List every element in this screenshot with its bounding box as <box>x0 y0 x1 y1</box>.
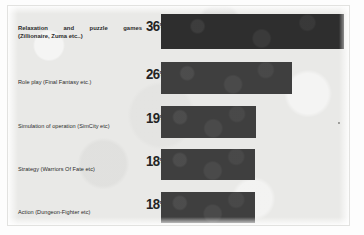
bar <box>161 106 256 138</box>
category-label: Relaxation and puzzle games (Zillionaire… <box>18 16 142 49</box>
bar <box>161 14 344 49</box>
value-number: 19 <box>146 109 160 126</box>
chart-row: Action (Dungeon-Fighter etc) 18% <box>8 183 349 225</box>
scan-artifact-speck <box>338 122 340 124</box>
category-label-line1: Action (Dungeon-Fighter etc) <box>18 209 90 215</box>
bar <box>161 62 292 94</box>
category-label: Simulation of operation (SimCity etc) <box>18 116 110 131</box>
value-number: 36 <box>146 17 160 34</box>
chart-row: Role play (Final Fantasy etc.) 26% <box>8 54 349 97</box>
scanned-page: Relaxation and puzzle games (Zillionaire… <box>0 0 364 235</box>
category-label: Role play (Final Fantasy etc.) <box>18 72 91 87</box>
bar <box>161 149 255 180</box>
category-label-line2: (Zillionaire, Zuma etc..) <box>18 32 142 40</box>
bar <box>161 192 255 223</box>
chart-row: Strategy (Warriors Of Fate etc) 18% <box>8 140 349 183</box>
value-number: 18 <box>146 195 160 212</box>
value-number: 26 <box>146 65 160 82</box>
chart-row: Simulation of operation (SimCity etc) 19… <box>8 97 349 140</box>
value-number: 18 <box>146 152 160 169</box>
category-label-line1: Simulation of operation (SimCity etc) <box>18 123 110 129</box>
chart-canvas: Relaxation and puzzle games (Zillionaire… <box>8 6 349 225</box>
category-label-line1: Strategy (Warriors Of Fate etc) <box>18 166 95 172</box>
category-label: Action (Dungeon-Fighter etc) <box>18 202 90 217</box>
category-label: Strategy (Warriors Of Fate etc) <box>18 159 95 174</box>
category-label-line1: Role play (Final Fantasy etc.) <box>18 79 91 85</box>
chart-row: Relaxation and puzzle games (Zillionaire… <box>8 6 349 54</box>
category-label-line1: Relaxation and puzzle games <box>18 25 142 31</box>
